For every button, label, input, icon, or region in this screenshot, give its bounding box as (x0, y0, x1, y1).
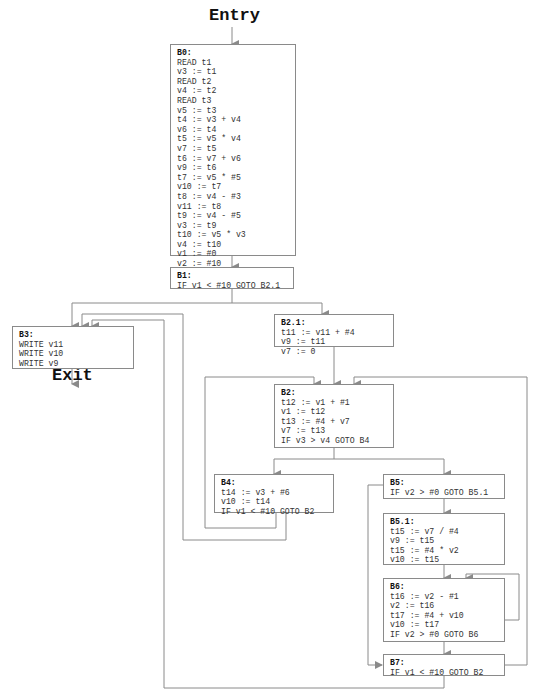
code-line: t5 := v5 * v4 (177, 134, 289, 144)
code-line: v7 := t13 (281, 426, 387, 436)
code-line: IF v1 < #10 GOTO B2 (221, 507, 327, 517)
code-line: t7 := v5 * #5 (177, 173, 289, 183)
code-line: IF v3 > v4 GOTO B4 (281, 436, 387, 446)
code-line: v10 := t15 (390, 555, 498, 565)
code-line: t15 := #4 * v2 (390, 546, 498, 556)
code-line: t10 := v5 * v3 (177, 230, 289, 240)
block-label: B7: (390, 658, 498, 668)
block-label: B5: (390, 478, 498, 488)
block-b2-1: B2.1:t11 := v11 + #4v9 := t11v7 := 0 (274, 314, 394, 347)
code-line: IF v2 > #0 GOTO B5.1 (390, 488, 498, 498)
code-line: t13 := #4 + v7 (281, 417, 387, 427)
block-b7: B7:IF v1 < #10 GOTO B2 (383, 654, 505, 676)
code-line: v7 := 0 (281, 347, 387, 357)
code-line: IF v1 < #10 GOTO B2.1 (177, 281, 287, 291)
code-line: v1 := #0 (177, 249, 289, 259)
code-line: v9 := t15 (390, 536, 498, 546)
code-line: v5 := t3 (177, 106, 289, 116)
code-line: WRITE v9 (19, 359, 127, 369)
code-line: v3 := t9 (177, 221, 289, 231)
edge-b5-b7 (368, 485, 383, 665)
code-line: READ t2 (177, 77, 289, 87)
block-b0: B0:READ t1v3 := t1READ t2v4 := t2READ t3… (170, 44, 296, 256)
code-line: t16 := v2 - #1 (390, 592, 498, 602)
code-line: v4 := t10 (177, 240, 289, 250)
block-b2: B2:t12 := v1 + #1v1 := t12t13 := #4 + v7… (274, 384, 394, 448)
block-label: B2: (281, 388, 387, 398)
code-line: v11 := t8 (177, 202, 289, 212)
block-b5-1: B5.1:t15 := v7 / #4v9 := t15t15 := #4 * … (383, 513, 505, 565)
code-line: v9 := t11 (281, 337, 387, 347)
code-line: READ t3 (177, 96, 289, 106)
code-line: WRITE v11 (19, 340, 127, 350)
edge-b1-b2-1 (232, 289, 322, 314)
block-label: B4: (221, 478, 327, 488)
code-line: v2 := t16 (390, 601, 498, 611)
block-label: B2.1: (281, 318, 387, 328)
code-line: t12 := v1 + #1 (281, 398, 387, 408)
block-b4: B4:t14 := v3 + #6v10 := t14IF v1 < #10 G… (214, 474, 334, 513)
code-line: t9 := v4 - #5 (177, 211, 289, 221)
code-line: v10 := t14 (221, 497, 327, 507)
code-line: v4 := t2 (177, 86, 289, 96)
code-line: v10 := t7 (177, 182, 289, 192)
block-b3: B3:WRITE v11WRITE v10WRITE v9 (12, 326, 134, 369)
entry-terminal: Entry (209, 6, 260, 25)
block-label: B6: (390, 582, 498, 592)
block-label: B3: (19, 330, 127, 340)
edge-b2-b4 (274, 448, 334, 474)
code-line: t11 := v11 + #4 (281, 328, 387, 338)
code-line: WRITE v10 (19, 349, 127, 359)
code-line: v3 := t1 (177, 67, 289, 77)
block-b1: B1:IF v1 < #10 GOTO B2.1 (170, 267, 294, 289)
code-line: t14 := v3 + #6 (221, 488, 327, 498)
block-label: B5.1: (390, 517, 498, 527)
block-label: B1: (177, 271, 287, 281)
code-line: t4 := v3 + v4 (177, 115, 289, 125)
code-line: READ t1 (177, 58, 289, 68)
code-line: v10 := t17 (390, 620, 498, 630)
code-line: v1 := t12 (281, 407, 387, 417)
block-b6: B6:t16 := v2 - #1v2 := t16t17 := #4 + v1… (383, 578, 505, 642)
code-line: t8 := v4 - #3 (177, 192, 289, 202)
block-b5: B5:IF v2 > #0 GOTO B5.1 (383, 474, 505, 499)
edge-b2-b5 (334, 459, 444, 474)
code-line: t6 := v7 + v6 (177, 154, 289, 164)
code-line: t17 := #4 + v10 (390, 611, 498, 621)
code-line: IF v2 > #0 GOTO B6 (390, 630, 498, 640)
code-line: t15 := v7 / #4 (390, 527, 498, 537)
code-line: v6 := t4 (177, 125, 289, 135)
code-line: IF v1 < #10 GOTO B2 (390, 668, 498, 678)
code-line: v9 := t6 (177, 163, 289, 173)
code-line: v7 := t5 (177, 144, 289, 154)
block-label: B0: (177, 48, 289, 58)
